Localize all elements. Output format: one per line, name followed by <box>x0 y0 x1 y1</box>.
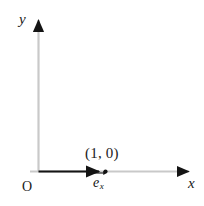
basis-vector-letter: e <box>93 175 99 190</box>
basis-vector-label: e x <box>93 176 104 191</box>
origin-label: O <box>22 180 32 194</box>
basis-vector-letter-group: e <box>93 176 99 190</box>
basis-vector-subscript: x <box>100 181 104 191</box>
point-marker-1-0 <box>103 169 107 173</box>
x-axis-label: x <box>188 176 195 191</box>
vector-diagram: y x O (1, 0) e x <box>0 0 204 206</box>
y-axis-label: y <box>19 12 26 27</box>
point-coordinates-label: (1, 0) <box>85 145 119 162</box>
